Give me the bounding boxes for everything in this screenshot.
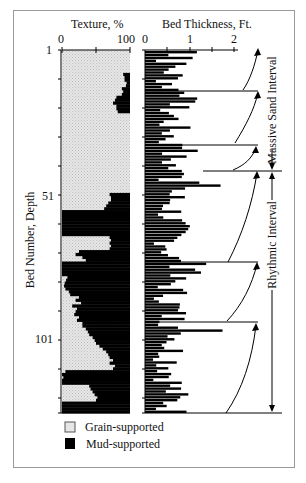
legend-grain-supported: Grain-supported (85, 420, 164, 435)
thickness-bars (145, 51, 223, 413)
legend-mud-supported: Mud-supported (86, 437, 160, 452)
legend-grain-swatch (65, 422, 75, 432)
legend-mud-swatch (65, 438, 75, 449)
stratigraphic-chart (0, 0, 306, 483)
